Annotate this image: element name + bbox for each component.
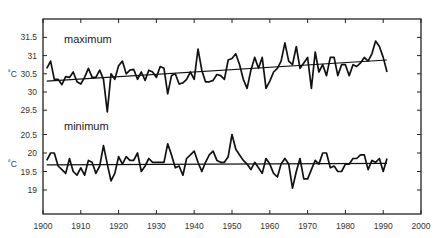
temperature-chart: 29.53030.53131.5 1919.52020.5 1900191019… (0, 0, 439, 238)
minimum-series (47, 135, 387, 189)
x-tick-label: 1930 (147, 221, 166, 231)
y-tick-label: 20.5 (20, 130, 37, 140)
y-tick-label: 19.5 (20, 167, 37, 177)
unit-label-maximum: ˚C (8, 69, 17, 79)
maximum-series (47, 41, 387, 112)
x-tick-label: 1920 (109, 221, 128, 231)
y-tick-label: 30.5 (20, 69, 37, 79)
maximum-label: maximum (64, 33, 112, 45)
plot-border (43, 19, 421, 214)
plot-frame (43, 19, 421, 214)
minimum-label: minimum (64, 120, 109, 132)
x-tick-label: 1990 (374, 221, 393, 231)
data-line (47, 135, 387, 189)
data-line (47, 41, 387, 112)
x-tick-label: 1960 (260, 221, 279, 231)
trend-line (47, 163, 387, 164)
y-tick-label: 30 (28, 87, 38, 97)
y-tick-label: 20 (28, 148, 38, 158)
x-tick-label: 1970 (298, 221, 317, 231)
y-tick-label: 31.5 (20, 32, 37, 42)
x-tick-label: 1940 (185, 221, 204, 231)
x-tick-label: 1910 (71, 221, 90, 231)
x-tick-label: 1980 (336, 221, 355, 231)
x-tick-label: 1900 (34, 221, 53, 231)
x-tick-label: 1950 (223, 221, 242, 231)
y-tick-label: 31 (28, 51, 38, 61)
unit-label-minimum: ˚C (8, 159, 17, 169)
x-tick-label: 2000 (412, 221, 431, 231)
y-tick-label: 29.5 (20, 105, 37, 115)
y-tick-label: 19 (28, 185, 38, 195)
